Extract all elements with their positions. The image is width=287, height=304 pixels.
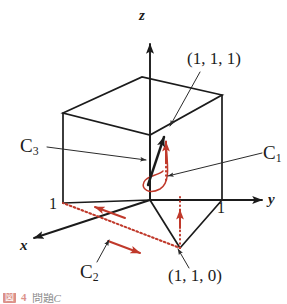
- point-110-label: (1, 1, 0): [168, 267, 222, 284]
- z-axis-label: z: [139, 8, 145, 23]
- c2-arrow-lower: [108, 241, 140, 253]
- curve-c3-letter: C: [20, 135, 33, 156]
- caption-text: 問題C: [32, 293, 61, 304]
- cube-top-face: [63, 77, 222, 135]
- curve-c2-letter: C: [80, 261, 93, 282]
- curve-c1-label: C1: [263, 143, 282, 165]
- leader-c2: [97, 240, 109, 262]
- curve-c1-subscript: 1: [276, 152, 282, 165]
- cube-edge-front-bottom-left: [150, 200, 180, 248]
- y-axis-label: y: [268, 192, 275, 207]
- caption-text-main: 問題: [32, 293, 54, 304]
- cube-edge-front-bottom-right: [180, 200, 222, 248]
- leader-point-111: [170, 72, 200, 126]
- leader-c3: [47, 147, 146, 160]
- caption-badge: 図: [3, 293, 16, 303]
- leader-c1: [168, 153, 262, 176]
- axes: [34, 44, 262, 238]
- leader-lines: [47, 72, 262, 268]
- figure-caption: 図 4 問題C: [0, 293, 287, 304]
- point-111-label: (1, 1, 1): [187, 50, 241, 67]
- geometry-figure: z y x 1 1 (1, 1, 1) (1, 1, 0) C3 C1 C2: [0, 0, 287, 304]
- caption-number: 4: [21, 293, 27, 303]
- caption-text-italic: C: [54, 293, 61, 304]
- curve-c3-subscript: 3: [33, 145, 39, 158]
- curve-c3-label: C3: [20, 136, 39, 158]
- x-axis-tick-label: 1: [49, 196, 57, 212]
- curve-c2-subscript: 2: [93, 271, 99, 284]
- curve-c2-label: C2: [80, 262, 99, 284]
- cube-wireframe: [63, 77, 222, 248]
- figure-canvas: [0, 0, 287, 304]
- cube-edge-bottom-left: [63, 200, 150, 203]
- curve-c1-letter: C: [263, 142, 276, 163]
- y-axis-tick-label: 1: [217, 200, 225, 216]
- curve-c2-arrowheads-b: [108, 241, 140, 253]
- x-axis-label: x: [20, 238, 28, 253]
